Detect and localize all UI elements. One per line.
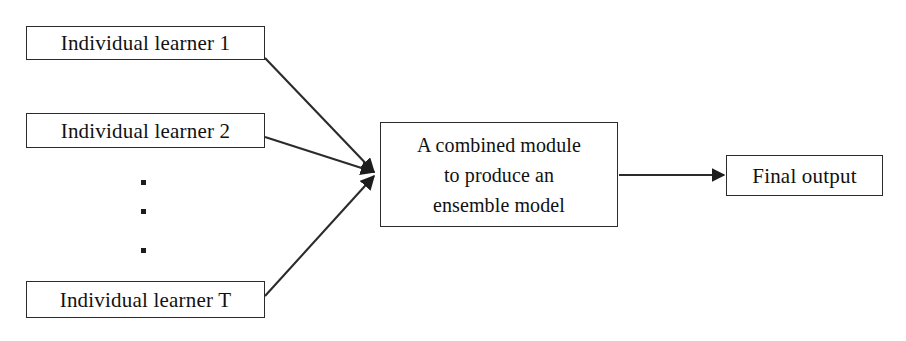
edge-learner-t-to-combiner	[265, 176, 374, 296]
diagram-canvas: Individual learner 1 Individual learner …	[0, 0, 906, 341]
node-combined-module-label: A combined module to produce an ensemble…	[417, 130, 581, 220]
node-individual-learner-1-label: Individual learner 1	[61, 31, 231, 55]
node-final-output-label: Final output	[752, 164, 857, 188]
node-individual-learner-2-label: Individual learner 2	[61, 119, 231, 143]
ellipsis-dot	[141, 209, 146, 214]
ellipsis-dot	[141, 248, 146, 253]
ellipsis-dot	[141, 180, 146, 185]
node-individual-learner-1[interactable]: Individual learner 1	[26, 26, 265, 60]
vertical-ellipsis	[138, 172, 152, 268]
node-individual-learner-t-label: Individual learner T	[60, 288, 232, 312]
node-individual-learner-2[interactable]: Individual learner 2	[26, 113, 265, 148]
node-individual-learner-t[interactable]: Individual learner T	[26, 281, 265, 318]
node-combined-module[interactable]: A combined module to produce an ensemble…	[380, 122, 618, 227]
node-final-output[interactable]: Final output	[726, 155, 883, 196]
